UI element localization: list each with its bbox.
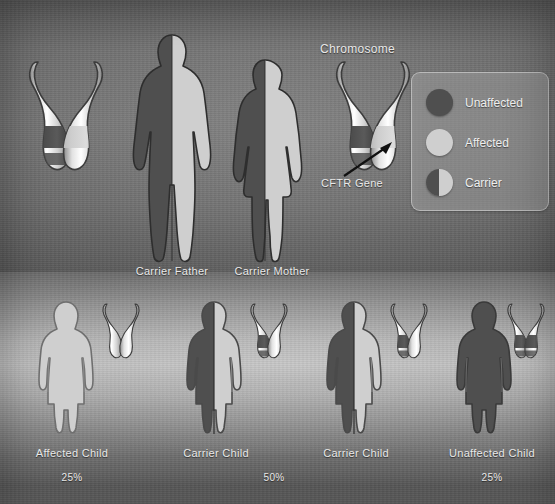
label-carrier-father: Carrier Father <box>136 265 209 277</box>
figure-carrier-mother <box>225 58 305 264</box>
figure-carrier-child-2 <box>320 300 388 438</box>
percent-unaffected-child: 25% <box>482 472 503 483</box>
legend-item-unaffected: Unaffected <box>426 89 523 116</box>
legend-swatch-carrier-icon <box>426 169 453 196</box>
legend-swatch-unaffected-icon <box>426 89 453 116</box>
cftr-gene-arrow-icon <box>340 140 400 180</box>
chromosome-unaffected-child <box>505 302 547 360</box>
mother-half-unaffected <box>225 58 265 264</box>
percent-affected-child: 25% <box>62 472 83 483</box>
figure-affected-child <box>32 300 100 438</box>
chromosome-carrier-child-2 <box>388 302 430 360</box>
label-unaffected-child: Unaffected Child <box>449 447 535 459</box>
chromosome-affected-child <box>100 302 142 360</box>
inheritance-diagram: Carrier Father Carrier Mother <box>0 0 555 504</box>
chromosome-carrier-child-1 <box>248 302 290 360</box>
child1-fill-affected <box>32 300 100 438</box>
label-carrier-child-2: Carrier Child <box>323 447 389 459</box>
figure-carrier-father <box>124 33 220 264</box>
label-chromosome: Chromosome <box>320 42 395 56</box>
label-affected-child: Affected Child <box>36 447 108 459</box>
figure-carrier-child-1 <box>180 300 248 438</box>
legend-label-carrier: Carrier <box>465 176 502 190</box>
legend-item-carrier: Carrier <box>426 169 502 196</box>
mother-half-affected <box>265 58 305 264</box>
legend-label-unaffected: Unaffected <box>465 96 523 110</box>
percent-carrier-children: 50% <box>264 472 285 483</box>
label-cftr-gene: CFTR Gene <box>321 177 383 189</box>
legend-label-affected: Affected <box>465 136 509 150</box>
legend-item-affected: Affected <box>426 129 509 156</box>
legend-swatch-affected-icon <box>426 129 453 156</box>
label-carrier-child-1: Carrier Child <box>183 447 249 459</box>
legend-panel: Unaffected Affected Carrier <box>411 72 549 211</box>
chromosome-father <box>24 58 108 174</box>
label-carrier-mother: Carrier Mother <box>234 265 309 277</box>
